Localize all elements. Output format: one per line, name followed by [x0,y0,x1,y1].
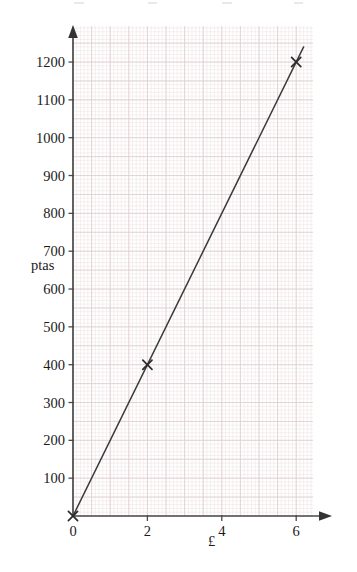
x-tick-label: 2 [144,523,151,539]
y-axis-title: ptas [31,257,55,273]
x-axis-arrowhead [319,511,332,521]
x-tick-label: 4 [218,523,226,539]
x-axis-tick-labels: 0246 [69,523,299,539]
x-axis-title: £ [208,533,215,549]
y-tick-label: 1200 [36,54,65,70]
y-tick-label: 400 [43,357,65,373]
x-tick-label: 0 [69,523,76,539]
chart-canvas: 100200300400500600700800900100011001200 … [0,0,357,572]
y-tick-label: 1000 [36,130,65,146]
y-tick-label: 800 [43,205,65,221]
y-tick-label: 300 [43,395,65,411]
y-tick-label: 100 [43,470,65,486]
y-tick-label: 1100 [37,92,65,108]
scan-artifacts [74,2,303,4]
x-tick-label: 6 [293,523,300,539]
y-tick-label: 500 [43,319,65,335]
y-tick-label: 200 [43,432,65,448]
y-tick-label: 600 [43,281,65,297]
conversion-graph: 100200300400500600700800900100011001200 … [0,0,357,572]
data-series [68,47,303,521]
y-tick-label: 900 [43,168,65,184]
